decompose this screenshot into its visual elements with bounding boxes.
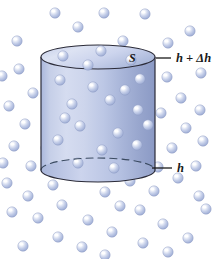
gas-molecule — [33, 213, 43, 223]
gas-molecule — [28, 88, 38, 98]
gas-molecule — [156, 108, 166, 118]
gas-molecule — [73, 22, 83, 32]
gas-molecule — [196, 68, 206, 78]
gas-molecule — [7, 207, 17, 217]
gas-molecule — [118, 36, 128, 46]
gas-molecule — [48, 180, 58, 190]
gas-molecule — [162, 72, 172, 82]
gas-molecule — [100, 187, 110, 197]
gas-molecule — [0, 158, 8, 168]
area-label: S — [129, 51, 136, 65]
gas-column-figure: S h + Δh h — [0, 0, 213, 259]
gas-molecule — [143, 120, 153, 130]
gas-molecule — [2, 178, 12, 188]
gas-molecule — [167, 143, 177, 153]
gas-molecule — [198, 136, 208, 146]
gas-molecule — [83, 215, 93, 225]
gas-molecule — [135, 74, 145, 84]
gas-molecule — [53, 135, 63, 145]
gas-molecule — [97, 145, 107, 155]
gas-molecule — [67, 99, 77, 109]
gas-molecule — [9, 141, 19, 151]
gas-molecule — [23, 191, 33, 201]
gas-molecule — [53, 232, 63, 242]
gas-molecule — [57, 200, 67, 210]
gas-molecule — [100, 250, 110, 259]
gas-molecule — [185, 26, 195, 36]
gas-molecule — [133, 105, 143, 115]
gas-molecule — [135, 205, 145, 215]
gas-molecule — [181, 123, 191, 133]
gas-molecule — [50, 8, 60, 18]
gas-molecule — [14, 64, 24, 74]
gas-molecule — [163, 247, 173, 257]
gas-molecule — [109, 163, 119, 173]
gas-molecule — [60, 113, 70, 123]
gas-molecule — [20, 119, 30, 129]
gas-molecule — [201, 204, 211, 214]
gas-molecule — [12, 36, 22, 46]
gas-molecule — [195, 105, 205, 115]
gas-molecule — [96, 46, 106, 56]
gas-molecule — [183, 233, 193, 243]
gas-molecule — [138, 238, 148, 248]
gas-molecule — [107, 227, 117, 237]
gas-molecule — [26, 161, 36, 171]
gas-molecule — [18, 241, 28, 251]
gas-molecule — [58, 51, 68, 61]
gas-molecule — [4, 101, 14, 111]
gas-molecule — [88, 82, 98, 92]
gas-molecule — [132, 140, 142, 150]
gas-molecule — [55, 75, 65, 85]
gas-molecule — [158, 219, 168, 229]
gas-molecule — [75, 121, 85, 131]
gas-molecule — [194, 191, 204, 201]
diagram-canvas: S h + Δh h — [0, 0, 213, 259]
gas-molecule — [140, 9, 150, 19]
top-height-label: h + Δh — [176, 51, 211, 65]
gas-molecule — [149, 186, 159, 196]
gas-molecule — [191, 161, 201, 171]
gas-molecule — [163, 38, 173, 48]
gas-molecule — [99, 8, 109, 18]
bottom-height-label: h — [177, 161, 184, 175]
gas-molecule — [176, 93, 186, 103]
gas-molecule — [83, 60, 93, 70]
gas-molecule — [115, 201, 125, 211]
gas-molecule — [105, 95, 115, 105]
gas-molecule — [77, 242, 87, 252]
gas-molecule — [120, 85, 130, 95]
gas-molecule — [113, 128, 123, 138]
